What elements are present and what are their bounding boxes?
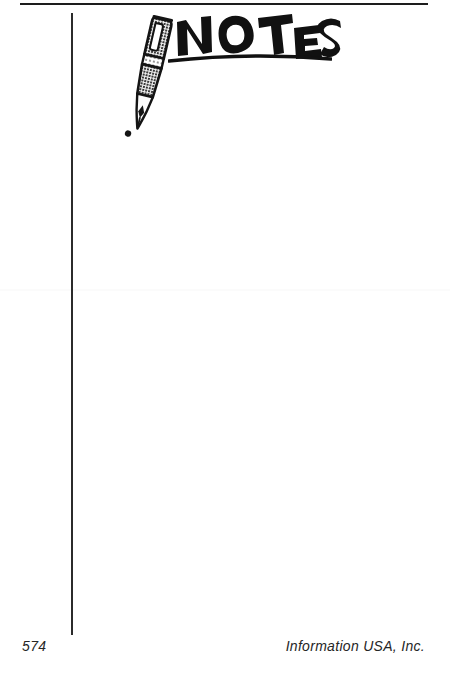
notes-writing-area[interactable] <box>80 150 430 620</box>
publisher-imprint: Information USA, Inc. <box>286 638 425 654</box>
page-number: 574 <box>22 638 47 654</box>
title-underline <box>168 52 332 66</box>
fountain-pen-icon <box>122 12 178 142</box>
vertical-margin-rule <box>71 13 73 635</box>
top-horizontal-rule <box>20 3 428 5</box>
notes-page: 574 Information USA, Inc. <box>0 0 450 683</box>
